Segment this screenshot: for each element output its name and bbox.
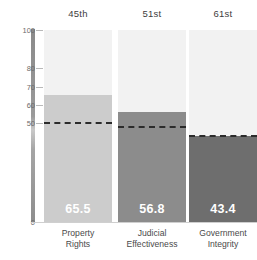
y-tick-80 (36, 68, 43, 69)
reference-line-property-rights (44, 122, 112, 124)
category-label-government-integrity: Government Integrity (185, 228, 257, 249)
category-label-property-rights: Property Rights (44, 228, 112, 249)
bar-value-property-rights: 65.5 (44, 202, 112, 216)
plot-area: 100 80 70 60 50 0 65.5 56.8 43.4 (0, 0, 257, 260)
y-tick-label-80: 80 (11, 64, 35, 73)
y-tick-50 (36, 123, 43, 124)
y-tick-label-100: 100 (11, 26, 35, 35)
bar-value-government-integrity: 43.4 (189, 202, 257, 216)
bar-property-rights[interactable]: 65.5 (44, 95, 112, 222)
y-tick-label-50: 50 (11, 119, 35, 128)
bar-value-judicial-effectiveness: 56.8 (118, 202, 186, 216)
y-tick-100 (36, 30, 43, 31)
x-axis-baseline (31, 222, 257, 223)
chart-container: 45th 51st 61st 100 80 70 60 50 0 65.5 56… (0, 0, 257, 260)
category-label-judicial-effectiveness: Judicial Effectiveness (114, 228, 190, 249)
y-tick-label-70: 70 (11, 83, 35, 92)
y-tick-70 (36, 87, 43, 88)
bar-government-integrity[interactable]: 43.4 (189, 136, 257, 222)
reference-line-judicial-effectiveness (118, 126, 186, 128)
bar-judicial-effectiveness[interactable]: 56.8 (118, 112, 186, 222)
y-tick-label-60: 60 (11, 101, 35, 110)
y-tick-60 (36, 105, 43, 106)
reference-line-government-integrity (189, 135, 257, 137)
